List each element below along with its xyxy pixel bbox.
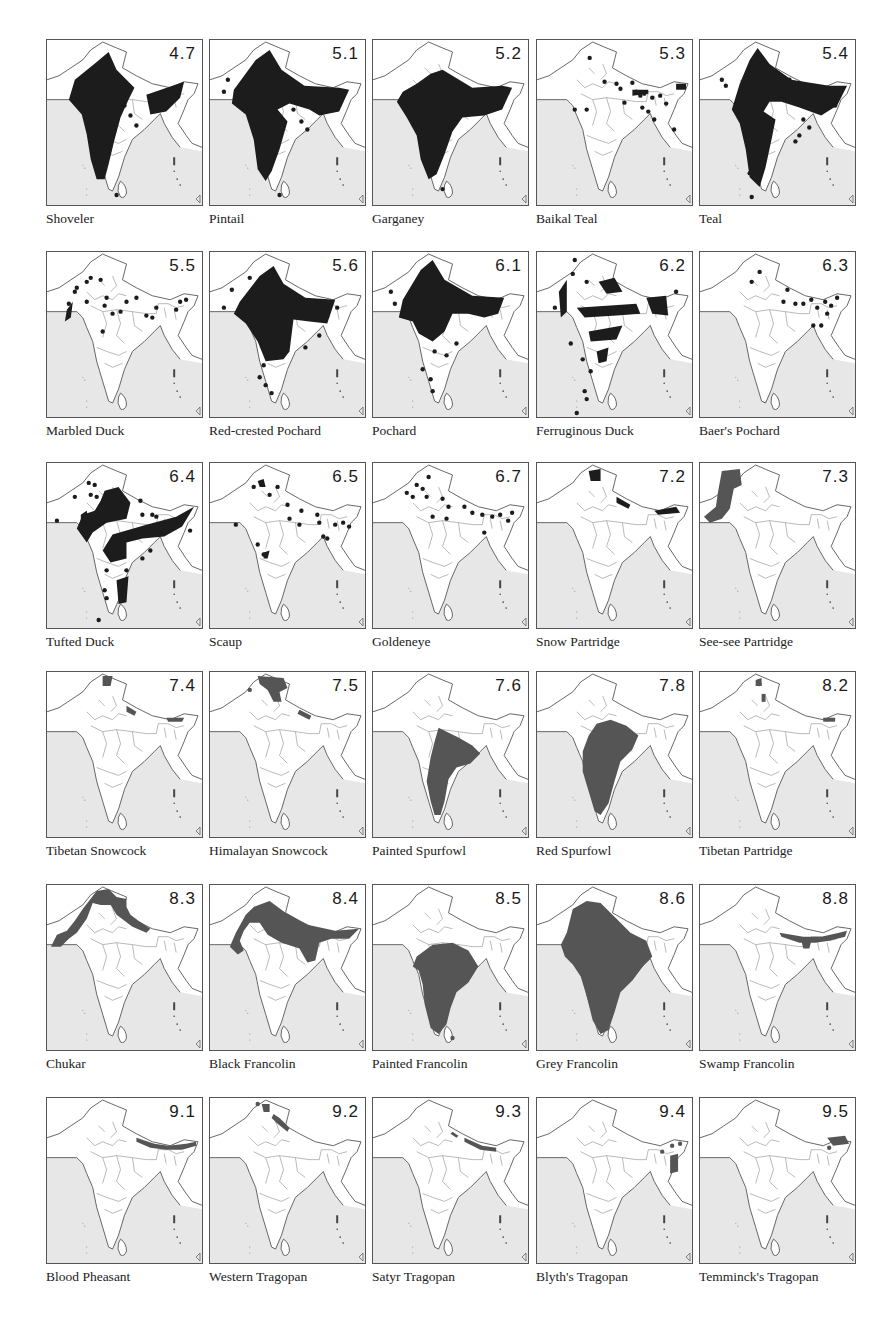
species-number: 5.2 (495, 44, 522, 64)
india-map-graphic (47, 463, 202, 628)
map-panel: 9.4Blyth's Tragopan (536, 1097, 693, 1297)
india-map-graphic (700, 252, 855, 417)
india-map-graphic (537, 463, 692, 628)
species-number: 6.4 (169, 467, 196, 487)
species-name: Tufted Duck (46, 634, 114, 650)
species-name: See-see Partridge (699, 634, 793, 650)
range-map: 7.4 (46, 671, 203, 838)
map-panel: 4.7Shoveler (46, 39, 203, 239)
species-name: Garganey (372, 211, 424, 227)
species-number: 7.5 (332, 676, 359, 696)
map-panel: 7.8Red Spurfowl (536, 671, 693, 871)
range-map: 9.4 (536, 1097, 693, 1264)
species-number: 8.5 (495, 889, 522, 909)
map-panel: 9.2Western Tragopan (209, 1097, 366, 1297)
species-name: Blyth's Tragopan (536, 1269, 628, 1285)
species-name: Tibetan Snowcock (46, 843, 146, 859)
species-number: 8.3 (169, 889, 196, 909)
species-name: Teal (699, 211, 722, 227)
species-name: Black Francolin (209, 1056, 296, 1072)
range-map: 6.5 (209, 462, 366, 629)
species-number: 5.1 (332, 44, 359, 64)
map-panel: 6.2Ferruginous Duck (536, 251, 693, 451)
map-panel: 9.3Satyr Tragopan (372, 1097, 529, 1297)
map-panel: 7.5Himalayan Snowcock (209, 671, 366, 871)
species-name: Grey Francolin (536, 1056, 618, 1072)
species-number: 6.5 (332, 467, 359, 487)
species-name: Scaup (209, 634, 242, 650)
range-map: 5.1 (209, 39, 366, 206)
map-panel: 9.5Temminck's Tragopan (699, 1097, 856, 1297)
map-panel: 5.6Red-crested Pochard (209, 251, 366, 451)
map-panel: 5.4Teal (699, 39, 856, 239)
species-number: 7.2 (659, 467, 686, 487)
species-name: Ferruginous Duck (536, 423, 634, 439)
india-map-graphic (700, 672, 855, 837)
species-number: 6.1 (495, 256, 522, 276)
range-map: 5.6 (209, 251, 366, 418)
india-map-graphic (210, 40, 365, 205)
map-panel: 6.4Tufted Duck (46, 462, 203, 662)
map-panel: 8.2Tibetan Partridge (699, 671, 856, 871)
india-map-graphic (210, 1098, 365, 1263)
species-name: Baer's Pochard (699, 423, 780, 439)
species-name: Pintail (209, 211, 244, 227)
species-name: Painted Spurfowl (372, 843, 466, 859)
species-number: 6.2 (659, 256, 686, 276)
india-map-graphic (373, 1098, 528, 1263)
india-map-graphic (373, 885, 528, 1050)
species-number: 6.7 (495, 467, 522, 487)
map-panel: 8.6Grey Francolin (536, 884, 693, 1084)
species-number: 5.6 (332, 256, 359, 276)
range-map: 6.3 (699, 251, 856, 418)
map-panel: 8.4Black Francolin (209, 884, 366, 1084)
range-map: 8.6 (536, 884, 693, 1051)
india-map-graphic (537, 1098, 692, 1263)
range-map-grid: 4.7Shoveler5.1Pintail5.2Garganey5.3Baika… (0, 0, 886, 1330)
india-map-graphic (700, 463, 855, 628)
range-map: 9.1 (46, 1097, 203, 1264)
india-map-graphic (537, 252, 692, 417)
species-number: 9.4 (659, 1102, 686, 1122)
range-map: 6.2 (536, 251, 693, 418)
india-map-graphic (47, 1098, 202, 1263)
range-map: 5.4 (699, 39, 856, 206)
species-number: 5.4 (822, 44, 849, 64)
map-panel: 8.5Painted Francolin (372, 884, 529, 1084)
range-map: 6.7 (372, 462, 529, 629)
map-panel: 6.5Scaup (209, 462, 366, 662)
species-name: Himalayan Snowcock (209, 843, 328, 859)
species-number: 9.5 (822, 1102, 849, 1122)
species-name: Western Tragopan (209, 1269, 307, 1285)
india-map-graphic (210, 463, 365, 628)
india-map-graphic (47, 672, 202, 837)
map-panel: 9.1Blood Pheasant (46, 1097, 203, 1297)
india-map-graphic (210, 885, 365, 1050)
range-map: 5.3 (536, 39, 693, 206)
india-map-graphic (373, 40, 528, 205)
species-name: Marbled Duck (46, 423, 124, 439)
range-map: 6.4 (46, 462, 203, 629)
range-map: 8.4 (209, 884, 366, 1051)
species-name: Red-crested Pochard (209, 423, 321, 439)
map-panel: 7.4Tibetan Snowcock (46, 671, 203, 871)
range-map: 7.3 (699, 462, 856, 629)
map-panel: 7.2Snow Partridge (536, 462, 693, 662)
species-number: 5.5 (169, 256, 196, 276)
species-name: Baikal Teal (536, 211, 597, 227)
species-number: 6.3 (822, 256, 849, 276)
map-panel: 5.3Baikal Teal (536, 39, 693, 239)
species-number: 9.3 (495, 1102, 522, 1122)
species-name: Painted Francolin (372, 1056, 468, 1072)
range-map: 6.1 (372, 251, 529, 418)
range-map: 8.5 (372, 884, 529, 1051)
india-map-graphic (373, 672, 528, 837)
map-panel: 6.3Baer's Pochard (699, 251, 856, 451)
species-name: Pochard (372, 423, 416, 439)
range-map: 7.5 (209, 671, 366, 838)
range-map: 5.2 (372, 39, 529, 206)
india-map-graphic (210, 252, 365, 417)
species-name: Blood Pheasant (46, 1269, 130, 1285)
map-panel: 5.2Garganey (372, 39, 529, 239)
species-number: 8.2 (822, 676, 849, 696)
